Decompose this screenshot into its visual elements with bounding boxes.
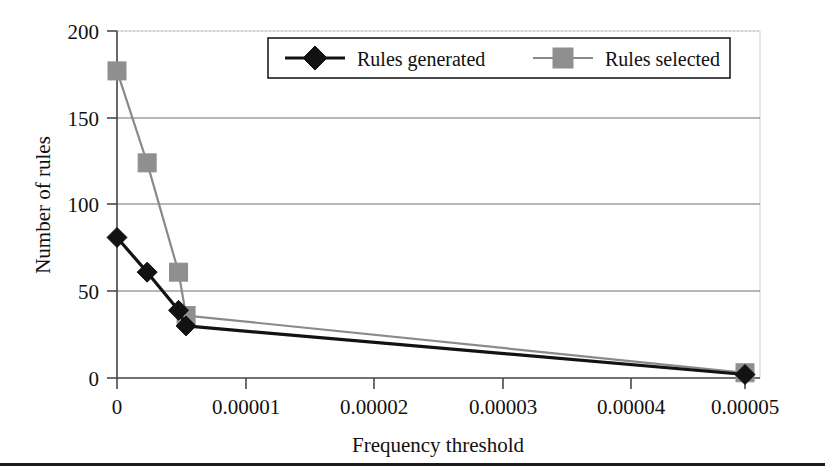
y-tick-label-0: 0 xyxy=(89,367,100,391)
data-point-marker-square xyxy=(138,154,156,172)
x-tick-label-2: 0.00002 xyxy=(340,395,408,419)
series-line xyxy=(117,237,745,374)
chart-legend: Rules generated Rules selected xyxy=(268,38,730,78)
data-point-marker-square xyxy=(170,263,188,281)
y-axis-title: Number of rules xyxy=(31,136,55,274)
data-series-layer xyxy=(107,62,755,385)
x-tick-label-5: 0.00005 xyxy=(711,395,779,419)
x-tick-label-0: 0 xyxy=(112,395,123,419)
y-tick-label-50: 50 xyxy=(78,280,99,304)
x-tick-label-4: 0.00004 xyxy=(597,395,666,419)
y-axis-ticks xyxy=(107,31,117,378)
legend-marker-square-icon xyxy=(553,48,573,68)
legend-label-selected: Rules selected xyxy=(605,48,720,70)
data-point-marker-square xyxy=(108,62,126,80)
y-tick-label-100: 100 xyxy=(68,193,100,217)
y-tick-label-200: 200 xyxy=(68,20,100,44)
legend-label-generated: Rules generated xyxy=(357,48,485,71)
x-axis-title: Frequency threshold xyxy=(352,433,525,457)
series-rules-generated xyxy=(107,227,755,384)
x-tick-label-3: 0.00003 xyxy=(469,395,537,419)
chart-figure: 200 150 100 50 0 0 0.00001 0.00002 0.000… xyxy=(0,0,825,476)
y-tick-label-150: 150 xyxy=(68,107,100,131)
page-bottom-rule xyxy=(0,463,825,466)
line-chart: 200 150 100 50 0 0 0.00001 0.00002 0.000… xyxy=(0,0,825,476)
x-tick-label-1: 0.00001 xyxy=(212,395,280,419)
series-rules-selected xyxy=(108,62,754,382)
x-axis-ticks xyxy=(117,378,745,389)
